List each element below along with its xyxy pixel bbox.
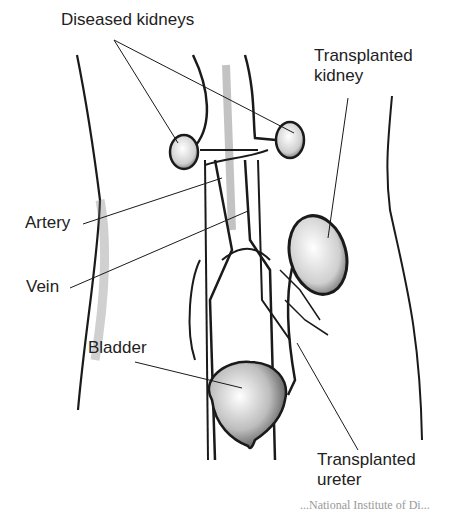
label-transplanted-ureter-line1: Transplanted	[317, 450, 416, 470]
label-transplanted-kidney-line2: kidney	[314, 66, 413, 86]
image-credit: ...National Institute of Di...	[300, 498, 430, 513]
label-diseased-kidneys: Diseased kidneys	[61, 10, 194, 30]
label-transplanted-ureter-line2: ureter	[317, 470, 416, 490]
label-transplanted-kidney: Transplanted kidney	[314, 46, 413, 86]
transplanted-kidney	[281, 209, 356, 301]
label-transplanted-kidney-line1: Transplanted	[314, 46, 413, 66]
native-ureters	[193, 55, 276, 145]
label-artery: Artery	[25, 213, 70, 233]
label-vein: Vein	[26, 277, 59, 297]
diseased-kidney-left	[170, 135, 198, 169]
label-transplanted-ureter: Transplanted ureter	[317, 450, 416, 490]
transplanted-ureter	[288, 268, 295, 395]
label-bladder: Bladder	[88, 338, 147, 358]
diseased-kidney-right	[276, 122, 304, 158]
